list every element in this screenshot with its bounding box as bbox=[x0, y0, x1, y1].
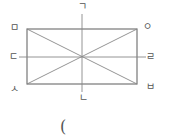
label-top-giyeok: ㄱ bbox=[78, 2, 87, 12]
label-top-left-mieum: ㅁ bbox=[10, 23, 19, 33]
label-right-rieul: ㄹ bbox=[146, 52, 155, 62]
label-top-right-ieung: ㅇ bbox=[143, 22, 152, 32]
label-left-digeut: ㄷ bbox=[9, 52, 18, 62]
answer-blank-open-paren: ( bbox=[60, 119, 66, 135]
label-bottom-nieun: ㄴ bbox=[79, 93, 88, 103]
label-bottom-right-bieup: ㅂ bbox=[146, 82, 155, 92]
label-bottom-left-siot: ㅅ bbox=[10, 84, 19, 94]
